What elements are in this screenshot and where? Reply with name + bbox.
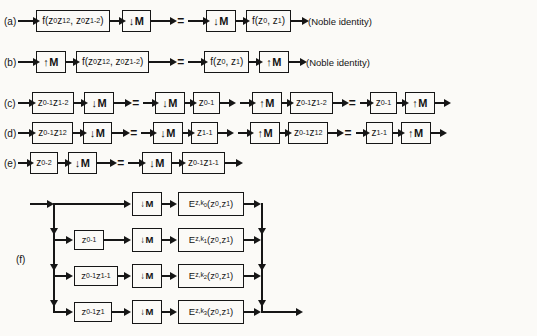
wire xyxy=(112,132,126,134)
wire xyxy=(143,102,155,104)
arrowhead-down xyxy=(258,228,266,235)
arrowhead-down xyxy=(50,300,58,307)
wire xyxy=(328,132,340,134)
wire xyxy=(397,102,405,104)
upsampler-box: ↑M xyxy=(252,92,282,114)
downsampler-box: ↓M xyxy=(206,10,236,32)
wire xyxy=(218,132,230,134)
wire xyxy=(112,311,127,313)
wire xyxy=(435,102,447,104)
wire xyxy=(183,132,191,134)
delay-box: z0-1z12 xyxy=(32,122,72,144)
arrowhead-down xyxy=(50,264,58,271)
wire xyxy=(18,162,30,164)
filter-box: f(z0, z1) xyxy=(204,51,249,73)
wire xyxy=(185,102,193,104)
wire xyxy=(162,239,173,241)
equals-sign: = xyxy=(177,55,184,69)
wire xyxy=(54,275,69,277)
downsampler-box: ↓M xyxy=(155,92,185,114)
equals-sign: = xyxy=(177,14,184,28)
row-b-label: (b) xyxy=(4,57,16,68)
wire xyxy=(333,102,345,104)
wire xyxy=(393,132,401,134)
delay-box: z0-1z1-2 xyxy=(290,92,333,114)
equals-sign: = xyxy=(344,126,351,140)
wire xyxy=(188,61,204,63)
row-c-label: (c) xyxy=(4,98,16,109)
wire xyxy=(66,61,76,63)
polyphase-filter-box: Ez,k2(z0,z1) xyxy=(178,264,244,288)
wire xyxy=(431,132,443,134)
wire xyxy=(54,239,69,241)
wire xyxy=(238,132,250,134)
wire xyxy=(282,102,290,104)
wire xyxy=(128,162,142,164)
arrowhead-down xyxy=(50,228,58,235)
downsampler-box: ↓M xyxy=(84,92,114,114)
wire xyxy=(244,275,257,277)
wire xyxy=(54,311,69,313)
polyphase-filter-box: Ez,k0(z0,z1) xyxy=(178,192,244,216)
delay-box: z0-1 xyxy=(74,230,104,250)
wire xyxy=(244,239,257,241)
row-d-label: (d) xyxy=(4,128,16,139)
upsampler-box: ↑M xyxy=(259,51,289,73)
wire xyxy=(244,311,257,313)
wire xyxy=(162,275,173,277)
wire xyxy=(30,203,50,205)
row-a: (a) f(z0z12, z0z1-2) ↓M = ↓M f(z0, z1) (… xyxy=(4,6,372,36)
wire xyxy=(18,20,36,22)
delay-box: z0-1 xyxy=(370,92,397,114)
arrowhead-down xyxy=(258,264,266,271)
polyphase-filter-box: Ez,k1(z0,z1) xyxy=(178,228,244,252)
wire xyxy=(356,132,366,134)
upsampler-box: ↑M xyxy=(405,92,435,114)
wire xyxy=(236,20,246,22)
downsampler-box: ↓M xyxy=(132,300,162,324)
wire xyxy=(240,102,252,104)
delay-box: z1-1 xyxy=(366,122,393,144)
row-d: (d) z0-1z12 ↓M = ↓M z1-1 ↑M z0-1z12 = z1… xyxy=(4,118,443,148)
bus-wire xyxy=(261,203,263,313)
wire xyxy=(249,61,259,63)
row-c: (c) z0-1z1-2 ↓M = ↓M z0-1 ↑M z0-1z1-2 = … xyxy=(4,88,447,118)
noble-identity-note: (Noble identity) xyxy=(308,16,372,27)
delay-box: z1-1 xyxy=(191,122,218,144)
polyphase-structure: z0-1 z0-1z1-1 z0-1z1 ↓M ↓M ↓M ↓M Ez,k0(z… xyxy=(30,192,330,332)
row-e-label: (e) xyxy=(4,158,16,169)
downsampler-box: ↓M xyxy=(83,122,113,144)
wire xyxy=(118,275,127,277)
delay-box: z0-1 xyxy=(193,92,220,114)
filter-box: f(z0z12, z0z1-2) xyxy=(76,51,149,73)
wire xyxy=(97,162,113,164)
arrowhead-down xyxy=(258,300,266,307)
figure-canvas: (a) f(z0z12, z0z1-2) ↓M = ↓M f(z0, z1) (… xyxy=(0,0,537,336)
delay-box: z0-1z1-1 xyxy=(182,152,225,174)
row-b: (b) ↑M f(z0z12, z0z1-2) = f(z0, z1) ↑M (… xyxy=(4,47,370,77)
wire xyxy=(74,102,84,104)
upsampler-box: ↑M xyxy=(250,122,280,144)
row-a-label: (a) xyxy=(4,16,16,27)
noble-identity-note: (Noble identity) xyxy=(306,57,370,68)
wire xyxy=(58,162,68,164)
wire xyxy=(162,203,173,205)
filter-box: f(z0z12, z0z1-2) xyxy=(36,10,109,32)
wire xyxy=(291,20,305,22)
downsampler-box: ↓M xyxy=(142,152,172,174)
wire xyxy=(54,203,127,205)
wire xyxy=(18,132,32,134)
wire xyxy=(244,203,257,205)
polyphase-filter-box: Ez,k3(z0,z1) xyxy=(178,300,244,324)
filter-box: f(z0, z1) xyxy=(246,10,291,32)
upsampler-box: ↑M xyxy=(36,51,66,73)
delay-box: z0-1z1-1 xyxy=(74,266,118,286)
wire xyxy=(289,61,303,63)
output-wire xyxy=(261,311,299,313)
delay-box: z0-1z1 xyxy=(74,302,112,322)
wire xyxy=(18,61,36,63)
upsampler-box: ↑M xyxy=(401,122,431,144)
wire xyxy=(220,102,232,104)
delay-box: z0-2 xyxy=(30,152,57,174)
bus-wire xyxy=(53,203,55,313)
